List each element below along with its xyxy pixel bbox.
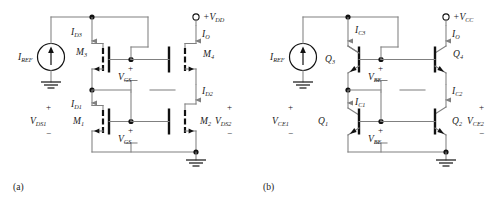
label-id1: ID1	[70, 99, 82, 110]
vds2-minus: −	[227, 128, 232, 138]
vds1-plus: +	[46, 102, 51, 112]
mid-node-a	[89, 87, 175, 112]
supply-open-circle-b	[443, 14, 449, 20]
emitter-arrow-q4	[437, 66, 444, 72]
caption-a: (a)	[13, 182, 24, 193]
bjt-q3	[348, 46, 381, 90]
vbe-bottom-plus: +	[378, 125, 383, 135]
label-iref-b: IREF	[269, 52, 285, 63]
label-vbe-top: VBE	[368, 72, 382, 83]
emitter-arrow-q2	[437, 128, 444, 134]
label-vds2: VDS2	[215, 116, 231, 127]
vgs-bottom-plus: +	[128, 125, 133, 135]
vce1-plus: +	[288, 102, 293, 112]
label-vcc: +VCC	[453, 12, 474, 23]
source-arrow-m3	[94, 67, 99, 72]
ground-symbol-main-a	[186, 160, 206, 166]
ground-symbol-iref-a	[41, 82, 61, 88]
label-vce1: VCE1	[272, 116, 289, 127]
label-vdd: +VDD	[203, 12, 225, 23]
wire-collector-q4	[435, 46, 446, 53]
emitter-arrow-q3	[350, 66, 357, 72]
circuit-a: IREF ID3 +VDD IO M3 M4 + VGS ID1 ID2 +	[13, 12, 232, 193]
top-rail-a	[89, 14, 148, 50]
circuit-b: IREF IC3 +VCC IO Q3 Q4 + VBE IC1 IC2 +	[263, 12, 484, 193]
vbe-top-plus: +	[378, 63, 383, 73]
vds1-minus: −	[46, 128, 51, 138]
emitter-arrow-q1	[350, 128, 357, 134]
label-vce2: VCE2	[467, 116, 484, 127]
supply-terminal-a	[185, 14, 199, 50]
label-ic1: IC1	[354, 97, 365, 108]
bjt-q1	[348, 109, 446, 153]
label-iref-a: IREF	[17, 52, 33, 63]
label-vds1: VDS1	[30, 116, 46, 127]
label-vgs-top: VGS	[118, 72, 131, 83]
supply-terminal-b	[435, 14, 449, 53]
label-m4: M4	[202, 49, 214, 60]
label-m1: M1	[72, 116, 84, 127]
source-arrow-m2	[189, 129, 194, 134]
current-source-iref-b	[290, 17, 349, 82]
source-arrow-m1	[94, 129, 99, 134]
figure-current-mirrors: IREF ID3 +VDD IO M3 M4 + VGS ID1 ID2 +	[0, 0, 501, 205]
vce1-minus: −	[288, 128, 293, 138]
label-id3: ID3	[70, 27, 82, 38]
label-q4: Q4	[453, 49, 463, 60]
label-q3: Q3	[325, 54, 335, 65]
mosfet-m4	[163, 47, 196, 111]
mosfet-m1	[92, 109, 196, 153]
vce2-plus: +	[479, 102, 484, 112]
label-vgs-bottom: VGS	[118, 134, 131, 145]
ground-symbol-main-b	[436, 160, 456, 166]
label-ic2: IC2	[451, 86, 462, 97]
label-m3: M3	[75, 47, 87, 58]
wire-collector-q1	[348, 108, 359, 115]
caption-b: (b)	[263, 182, 274, 193]
ground-symbol-iref-b	[293, 82, 313, 88]
label-id2: ID2	[201, 86, 213, 97]
supply-open-circle-a	[193, 14, 199, 20]
vds2-plus: +	[227, 102, 232, 112]
vce2-minus: −	[479, 128, 484, 138]
mosfet-m3	[92, 47, 131, 91]
label-q1: Q1	[318, 116, 328, 127]
bjt-q4	[413, 47, 446, 115]
circuit-diagram-svg: IREF ID3 +VDD IO M3 M4 + VGS ID1 ID2 +	[0, 0, 501, 205]
label-vbe-bottom: VBE	[368, 134, 382, 145]
vgs-top-plus: +	[128, 63, 133, 73]
source-arrow-m4	[189, 67, 194, 72]
label-io-a: IO	[201, 29, 210, 40]
label-ic3: IC3	[354, 25, 365, 36]
label-io-b: IO	[451, 29, 460, 40]
label-q2: Q2	[452, 116, 462, 127]
label-m2: M2	[199, 116, 211, 127]
